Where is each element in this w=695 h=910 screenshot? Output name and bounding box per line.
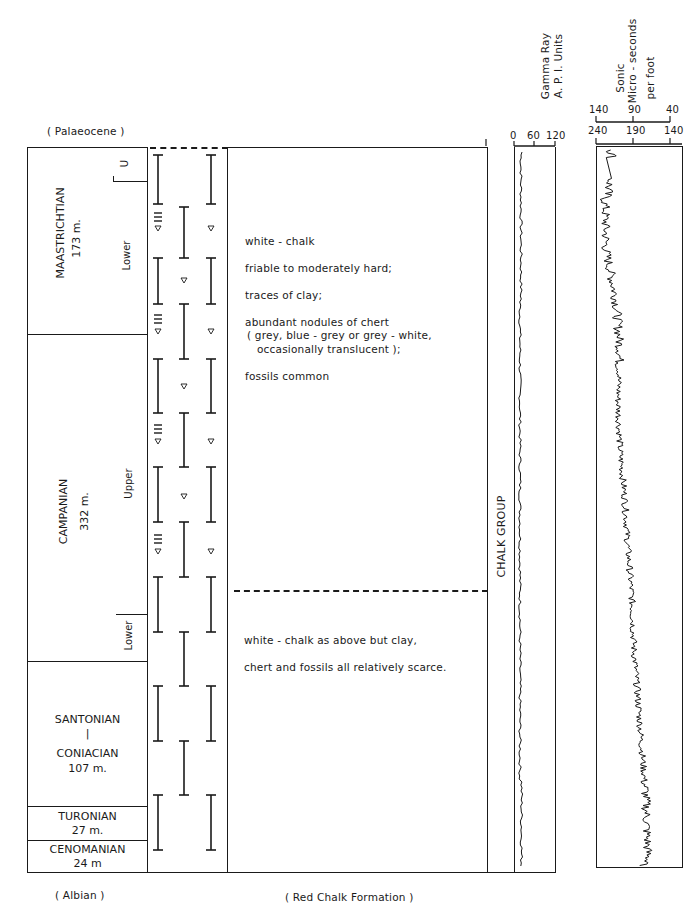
sonic-curve <box>0 0 695 910</box>
bottom-boundary-red-chalk: ( Red Chalk Formation ) <box>285 891 414 903</box>
bottom-boundary-albian: ( Albian ) <box>55 889 105 901</box>
